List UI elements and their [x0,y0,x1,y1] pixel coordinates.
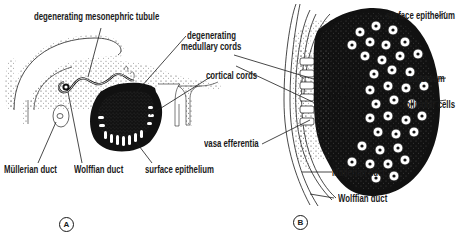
label-wolffian-duct-a: Wolffian duct [74,164,123,175]
panel-badge-b: B [293,215,308,230]
label-degenerating-mesonephric-tubule: degenerating mesonephric tubule [34,11,159,22]
label-vasa-efferentia: vasa efferentia [204,138,259,149]
label-oogonium: oogonium [407,73,445,84]
panel-badge-a: A [59,217,74,232]
label-degenerating-medullary-cords-line1: degenerating [187,30,236,41]
label-cortical-cords: cortical cords [206,70,257,81]
label-mullerian-duct-b: Müllerian duct [332,167,385,178]
label-surface-epithelium-b: surface epithelium [386,10,455,21]
label-mullerian-duct-a: Müllerian duct [4,164,57,175]
label-surface-epithelium-a: surface epithelium [145,164,214,175]
label-degenerating-medullary-cords-line2: medullary cords [181,41,241,52]
label-follicular-cells: follicular cells [403,99,455,110]
label-wolffian-duct-b: Wolffian duct [338,193,387,204]
